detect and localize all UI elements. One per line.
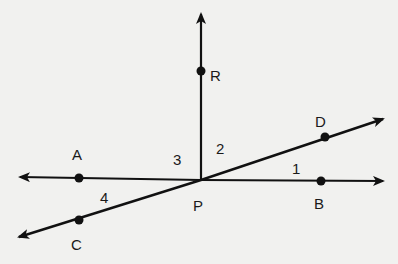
- angle-label-3: 3: [173, 151, 181, 168]
- angle-label-2: 2: [216, 140, 224, 157]
- line-ab: [20, 177, 201, 180]
- point-d-dot: [321, 133, 330, 142]
- point-r-dot: [197, 67, 206, 76]
- point-b-dot: [317, 177, 326, 186]
- line-cd: [19, 180, 201, 237]
- point-c-dot: [75, 216, 84, 225]
- label-d: D: [315, 113, 326, 130]
- diagram-canvas: R A B D C P 1 2 3 4: [0, 0, 398, 264]
- angle-label-1: 1: [292, 160, 300, 177]
- label-p: P: [193, 197, 203, 214]
- label-b: B: [314, 195, 324, 212]
- label-c: C: [71, 236, 82, 253]
- angle-label-4: 4: [100, 189, 108, 206]
- geometry-diagram: R A B D C P 1 2 3 4: [0, 0, 398, 264]
- line-ab-right: [201, 180, 383, 181]
- label-r: R: [210, 67, 221, 84]
- point-a-dot: [75, 174, 84, 183]
- label-a: A: [72, 146, 82, 163]
